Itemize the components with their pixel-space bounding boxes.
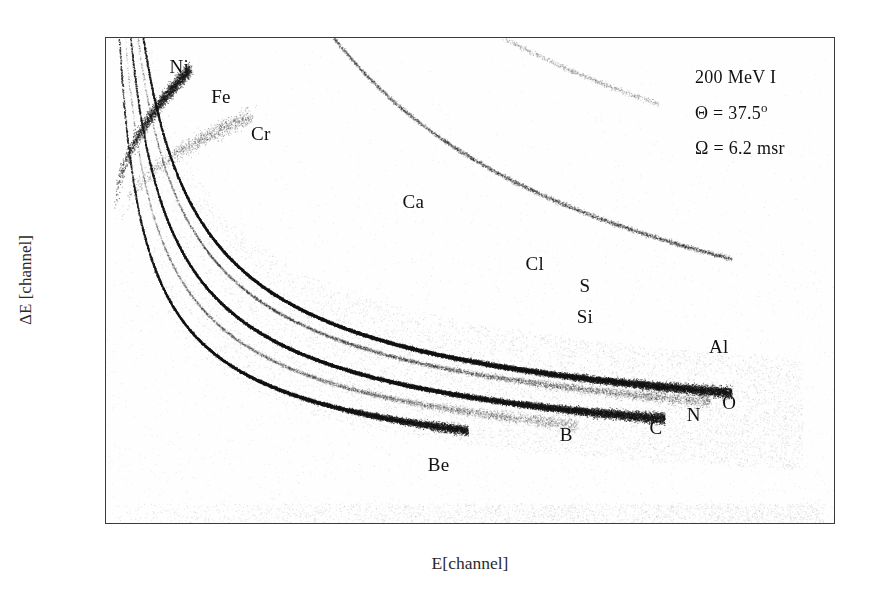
annotation-solid-angle: Ω = 6.2 msr: [695, 131, 785, 166]
x-tick: [731, 523, 732, 524]
element-label-ca: Ca: [403, 191, 425, 213]
element-label-n: N: [687, 404, 701, 426]
element-label-al: Al: [709, 336, 729, 358]
experiment-conditions-annotation: 200 MeV I Θ = 37.5o Ω = 6.2 msr: [695, 60, 785, 166]
x-tick-minor: [418, 523, 419, 524]
element-label-o: O: [722, 392, 736, 414]
element-label-c: C: [650, 417, 663, 439]
x-tick: [313, 523, 314, 524]
element-label-si: Si: [577, 306, 593, 328]
y-tick-minor: [105, 87, 106, 88]
y-tick-minor: [105, 477, 106, 478]
annotation-angle-unit: o: [761, 100, 768, 115]
y-tick: [105, 136, 106, 137]
x-axis-title: E[channel]: [432, 553, 509, 574]
element-label-cr: Cr: [251, 123, 271, 145]
y-tick-minor: [105, 233, 106, 234]
element-label-s: S: [580, 275, 591, 297]
x-tick-minor: [627, 523, 628, 524]
y-tick-minor: [105, 380, 106, 381]
y-axis-title: ΔE [channel]: [16, 235, 36, 325]
y-tick-minor: [105, 282, 106, 283]
delta-e-vs-e-scatter-figure: ΔE [channel] E[channel] 1200400500110020…: [0, 0, 879, 594]
x-tick: [522, 523, 523, 524]
y-tick-minor: [105, 428, 106, 429]
y-tick-minor: [105, 184, 106, 185]
element-label-ni: Ni: [169, 56, 189, 78]
y-tick: [105, 331, 106, 332]
element-label-cl: Cl: [526, 253, 545, 275]
x-tick-minor: [208, 523, 209, 524]
annotation-angle-text: Θ = 37.5: [695, 103, 761, 123]
element-label-b: B: [560, 424, 573, 446]
element-label-be: Be: [428, 454, 450, 476]
x-tick: [106, 523, 107, 524]
element-label-fe: Fe: [211, 86, 231, 108]
annotation-beam: 200 MeV I: [695, 60, 785, 95]
annotation-angle: Θ = 37.5o: [695, 95, 785, 131]
y-tick: [105, 38, 106, 39]
